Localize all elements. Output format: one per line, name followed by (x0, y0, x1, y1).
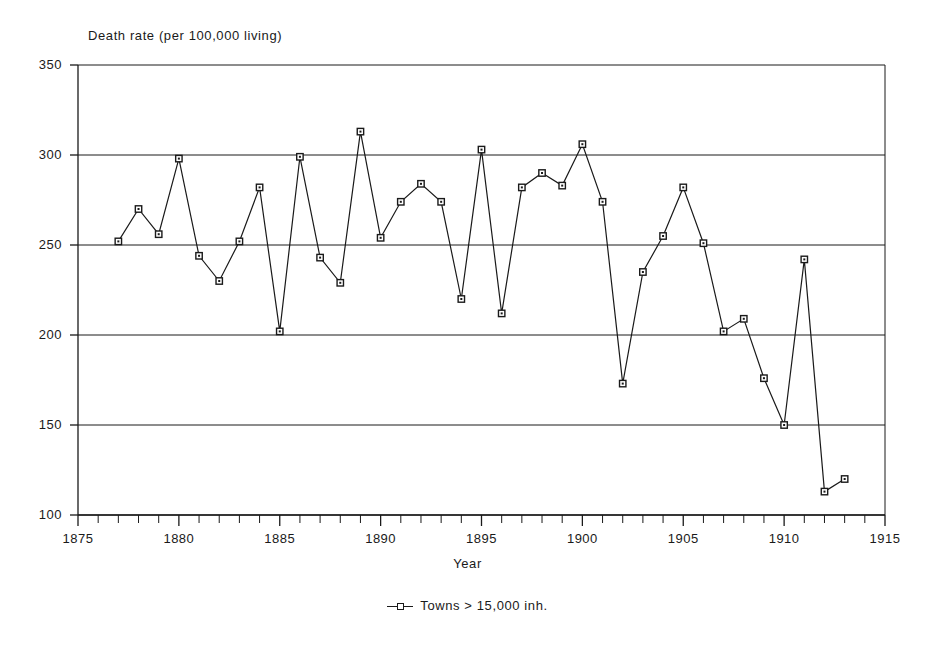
gridlines-group (78, 65, 885, 515)
x-tick-label: 1910 (754, 531, 814, 546)
chart-figure: Death rate (per 100,000 living) 35030025… (0, 0, 935, 647)
x-tick-label: 1895 (452, 531, 512, 546)
legend-marker-icon (387, 600, 413, 612)
series-group (115, 128, 848, 494)
x-tick-label: 1905 (653, 531, 713, 546)
x-tick-label: 1915 (855, 531, 915, 546)
y-axis-title: Death rate (per 100,000 living) (88, 28, 282, 43)
x-tick-label: 1880 (149, 531, 209, 546)
y-tick-label: 100 (16, 507, 62, 522)
legend-label: Towns > 15,000 inh. (420, 598, 547, 613)
y-tick-label: 200 (16, 327, 62, 342)
x-minor-ticks-group (78, 515, 885, 526)
legend-entry: Towns > 15,000 inh. (387, 598, 547, 613)
y-ticks-group (70, 65, 78, 515)
y-tick-label: 350 (16, 57, 62, 72)
x-axis-title: Year (0, 556, 935, 571)
y-tick-label: 300 (16, 147, 62, 162)
x-tick-label: 1900 (552, 531, 612, 546)
x-tick-label: 1890 (351, 531, 411, 546)
y-tick-label: 250 (16, 237, 62, 252)
x-tick-label: 1885 (250, 531, 310, 546)
axis-frame (78, 65, 885, 515)
y-tick-label: 150 (16, 417, 62, 432)
x-tick-label: 1875 (48, 531, 108, 546)
chart-plot-area (0, 0, 935, 647)
chart-legend: Towns > 15,000 inh. (0, 598, 935, 615)
